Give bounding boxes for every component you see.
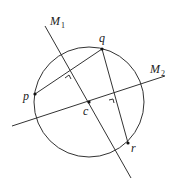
label-m2: M — [149, 62, 161, 76]
label-m1-subscript: 1 — [61, 21, 65, 30]
label-m2-subscript: 2 — [161, 69, 165, 78]
perpendicular-bisectors-diagram: p q r c M 1 M 2 — [0, 0, 176, 183]
point-p — [33, 92, 36, 95]
right-angle-mark-m1 — [65, 75, 71, 79]
label-p: p — [22, 89, 29, 103]
label-r: r — [131, 141, 136, 155]
point-q — [100, 47, 103, 50]
segment-qr — [102, 49, 128, 143]
segment-pq — [35, 49, 102, 94]
point-r — [126, 141, 129, 144]
label-m1: M — [49, 14, 61, 28]
label-q: q — [99, 31, 105, 45]
right-angle-mark-m2 — [109, 99, 114, 103]
label-c: c — [83, 104, 89, 118]
